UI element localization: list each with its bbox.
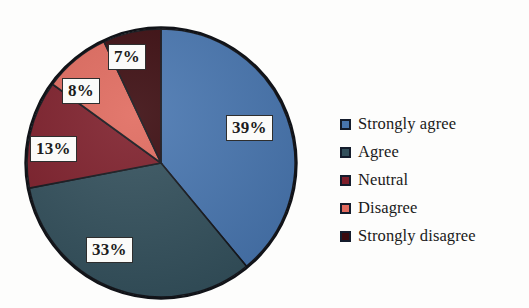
legend-swatch-icon-disagree <box>340 203 351 214</box>
legend-label-disagree: Disagree <box>358 198 417 218</box>
data-label-strongly-disagree: 7% <box>108 44 146 70</box>
legend-item-agree[interactable]: Agree <box>340 138 528 166</box>
data-label-neutral: 13% <box>30 136 77 162</box>
legend-label-strongly-agree: Strongly agree <box>358 114 456 134</box>
legend-label-strongly-disagree: Strongly disagree <box>358 226 476 246</box>
legend-label-agree: Agree <box>358 142 399 162</box>
chart-legend: Strongly agree Agree Neutral Disagree St… <box>340 110 528 250</box>
data-label-disagree: 8% <box>62 78 100 104</box>
legend-swatch-icon-agree <box>340 147 351 158</box>
legend-swatch-icon-strongly-disagree <box>340 231 351 242</box>
pie-chart-figure: 39% 33% 13% 8% 7% Strongly agree Agree N… <box>0 0 529 308</box>
legend-item-disagree[interactable]: Disagree <box>340 194 528 222</box>
pie-chart-svg <box>18 20 308 308</box>
pie-sheen-overlay <box>27 29 295 297</box>
legend-item-strongly-agree[interactable]: Strongly agree <box>340 110 528 138</box>
legend-label-neutral: Neutral <box>358 170 408 190</box>
pie-chart-plot-area: 39% 33% 13% 8% 7% <box>18 20 308 308</box>
data-label-strongly-agree: 39% <box>226 115 273 141</box>
data-label-agree: 33% <box>86 237 133 263</box>
legend-item-neutral[interactable]: Neutral <box>340 166 528 194</box>
legend-item-strongly-disagree[interactable]: Strongly disagree <box>340 222 528 250</box>
legend-swatch-icon-neutral <box>340 175 351 186</box>
legend-swatch-icon-strongly-agree <box>340 119 351 130</box>
